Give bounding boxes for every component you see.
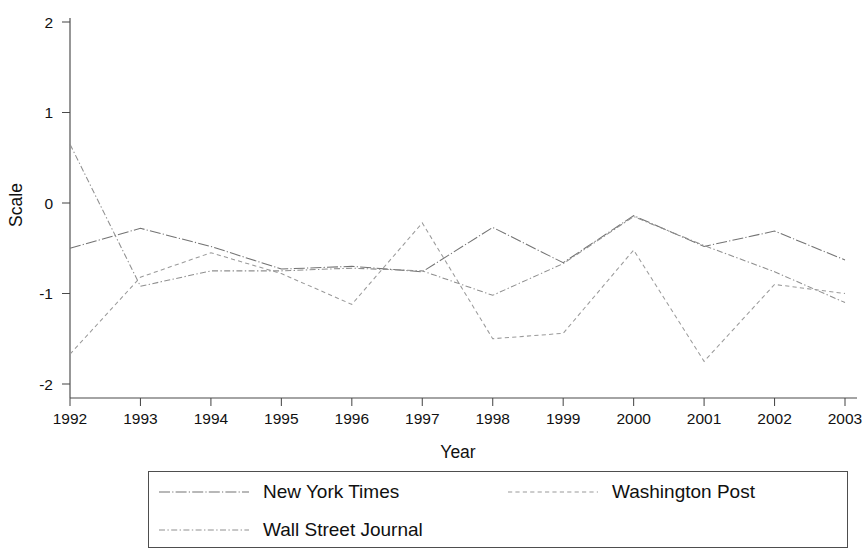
legend-item[interactable]: New York Times xyxy=(149,473,498,511)
legend-entry-list: New York TimesWashington PostWall Street… xyxy=(149,472,847,547)
series-line-new-york-times xyxy=(70,216,845,272)
data-series-group xyxy=(70,144,845,361)
legend-item[interactable]: Wall Street Journal xyxy=(149,511,498,549)
x-tick-label: 1996 xyxy=(335,410,369,427)
x-tick-label: 2003 xyxy=(828,410,862,427)
legend-line-swatch-icon xyxy=(159,486,249,498)
line-chart-svg: 210-1-2 19921993199419951996199719981999… xyxy=(0,0,865,465)
y-axis-title: Scale xyxy=(6,183,26,227)
y-tick-label: 0 xyxy=(44,195,53,212)
x-tick-label: 1992 xyxy=(53,410,87,427)
x-tick-label: 1994 xyxy=(194,410,229,427)
x-tick-label: 2002 xyxy=(757,410,791,427)
y-tick-label: 2 xyxy=(44,14,53,31)
legend-line-swatch-icon xyxy=(508,486,598,498)
legend-item[interactable]: Washington Post xyxy=(498,473,847,511)
series-line-wall-street-journal xyxy=(70,144,845,302)
x-tick-label: 1999 xyxy=(546,410,580,427)
y-axis-ticks: 210-1-2 xyxy=(39,14,70,393)
x-axis-title: Year xyxy=(440,442,476,462)
chart-legend: New York TimesWashington PostWall Street… xyxy=(148,471,848,548)
x-axis-ticks: 1992199319941995199619971998199920002001… xyxy=(53,398,862,427)
x-tick-label: 2000 xyxy=(616,410,651,427)
y-tick-label: -2 xyxy=(39,376,53,393)
x-tick-label: 1998 xyxy=(475,410,509,427)
chart-plot-area: 210-1-2 19921993199419951996199719981999… xyxy=(0,0,865,465)
figure-container: 210-1-2 19921993199419951996199719981999… xyxy=(0,0,865,552)
y-tick-label: -1 xyxy=(39,285,53,302)
legend-item-label: Wall Street Journal xyxy=(263,519,423,541)
legend-line-swatch-icon xyxy=(159,524,249,536)
x-tick-label: 1997 xyxy=(405,410,439,427)
series-line-washington-post xyxy=(70,223,845,361)
y-tick-label: 1 xyxy=(44,104,53,121)
x-tick-label: 1993 xyxy=(123,410,157,427)
legend-item-label: New York Times xyxy=(263,481,399,503)
x-tick-label: 2001 xyxy=(687,410,721,427)
x-tick-label: 1995 xyxy=(264,410,298,427)
legend-item-label: Washington Post xyxy=(612,481,755,503)
